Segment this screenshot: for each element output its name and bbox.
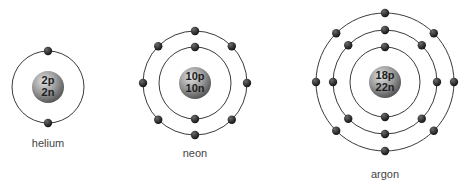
argon-electron: [430, 127, 438, 135]
argon-neutrons-label: 22n: [376, 81, 395, 93]
atom-argon: 18p 22n argon: [312, 9, 458, 180]
helium-protons-label: 2p: [42, 74, 55, 86]
helium-electron: [44, 119, 52, 127]
neon-electron: [228, 42, 236, 50]
neon-protons-label: 10p: [186, 70, 205, 82]
neon-electron: [139, 79, 147, 87]
argon-electron: [418, 41, 426, 49]
argon-electron: [312, 78, 320, 86]
neon-electron: [243, 79, 251, 87]
helium-label: helium: [32, 137, 64, 149]
argon-protons-label: 18p: [376, 69, 395, 81]
argon-electron: [430, 29, 438, 37]
atomic-structure-diagram: 2p 2n helium 10p 10n neon 18p 22n argon: [0, 0, 473, 191]
neon-label: neon: [183, 147, 207, 159]
argon-electron: [450, 78, 458, 86]
neon-neutrons-label: 10n: [186, 82, 205, 94]
argon-label: argon: [371, 168, 399, 180]
argon-electron: [418, 115, 426, 123]
argon-electron: [381, 113, 389, 121]
atom-helium: 2p 2n helium: [12, 47, 84, 149]
argon-electron: [344, 41, 352, 49]
neon-electron: [191, 131, 199, 139]
neon-electron: [154, 42, 162, 50]
neon-electron: [228, 116, 236, 124]
neon-electron: [191, 115, 199, 123]
argon-electron: [332, 127, 340, 135]
argon-electron: [381, 43, 389, 51]
argon-electron: [329, 78, 337, 86]
argon-electron: [433, 78, 441, 86]
argon-electron: [381, 130, 389, 138]
argon-electron: [381, 9, 389, 17]
neon-electron: [191, 43, 199, 51]
neon-electron: [154, 116, 162, 124]
neon-electron: [191, 27, 199, 35]
argon-electron: [332, 29, 340, 37]
helium-neutrons-label: 2n: [42, 86, 55, 98]
argon-electron: [381, 26, 389, 34]
helium-electron: [44, 47, 52, 55]
argon-electron: [381, 147, 389, 155]
atom-neon: 10p 10n neon: [139, 27, 251, 159]
argon-electron: [344, 115, 352, 123]
